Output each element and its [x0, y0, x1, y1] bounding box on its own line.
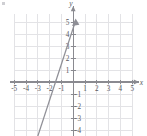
graph-figure: -5 -4 -3 -2 -1 1 2 3 4 5 5 4 3 2 1 -1 -2… — [0, 0, 147, 136]
y-tick-label: 1 — [66, 67, 70, 75]
x-tick-label: -4 — [23, 85, 29, 93]
y-tick-label: -2 — [75, 103, 81, 111]
x-tick-label: 2 — [95, 85, 99, 93]
x-tick-label: 1 — [83, 85, 87, 93]
y-tick-label: -1 — [75, 91, 81, 99]
y-tick-label: 5 — [66, 19, 70, 27]
x-axis-label: x — [139, 78, 144, 87]
x-tick-label: -3 — [35, 85, 41, 93]
x-tick-label: 3 — [107, 85, 111, 93]
coordinate-plane-chart: -5 -4 -3 -2 -1 1 2 3 4 5 5 4 3 2 1 -1 -2… — [0, 0, 147, 136]
y-tick-label: 4 — [66, 31, 70, 39]
corner-speck-icon — [2, 2, 5, 5]
y-tick-label: 2 — [66, 55, 70, 63]
y-axis-label: y — [68, 0, 73, 8]
y-tick-label: -4 — [75, 127, 81, 135]
x-tick-label: -5 — [11, 85, 17, 93]
x-tick-label: 4 — [119, 85, 123, 93]
y-tick-label: -3 — [75, 115, 81, 123]
x-tick-label: 5 — [130, 85, 134, 93]
x-tick-label: -1 — [58, 85, 64, 93]
